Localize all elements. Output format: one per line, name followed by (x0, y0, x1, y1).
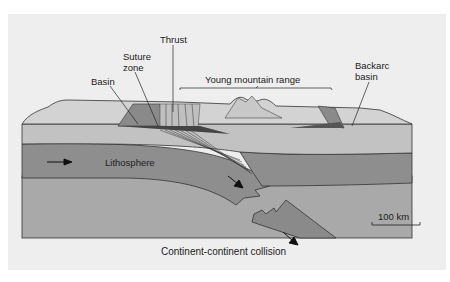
collision-diagram (0, 0, 450, 282)
label-lithosphere: Lithosphere (105, 157, 155, 168)
surface-top (22, 97, 412, 124)
label-thrust: Thrust (160, 34, 187, 45)
label-young-mountain-range: Young mountain range (205, 74, 300, 85)
mountain-range-bracket (180, 86, 332, 90)
label-backarc-basin-2: basin (355, 71, 378, 82)
lithosphere-layer-right (240, 152, 412, 186)
label-basin: Basin (91, 76, 115, 87)
figure-caption: Continent-continent collision (161, 246, 286, 257)
label-backarc-basin-1: Backarc (355, 60, 389, 71)
label-scale-bar: 100 km (378, 211, 409, 222)
label-suture-zone-2: zone (123, 62, 144, 73)
label-suture-zone-1: Suture (123, 51, 151, 62)
